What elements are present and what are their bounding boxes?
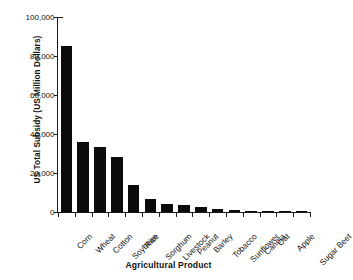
x-tick-label: Corn [76, 232, 95, 251]
y-tick-label: 80,000 [30, 52, 54, 61]
bar [77, 142, 88, 212]
x-tick-mark [192, 212, 193, 217]
bar [296, 211, 307, 212]
x-tick-mark [92, 212, 93, 217]
bar [178, 205, 189, 212]
y-tick-label: 60,000 [30, 91, 54, 100]
x-tick-label-text: Apple [295, 232, 316, 253]
x-tick-mark [142, 212, 143, 217]
x-tick-mark [310, 212, 311, 217]
bar [229, 210, 240, 212]
bar [128, 185, 139, 212]
bar [61, 46, 72, 212]
x-axis-title: Agricultural Product [0, 260, 337, 270]
x-tick-label: Apple [295, 232, 316, 253]
y-tick-label: 20,000 [30, 169, 54, 178]
y-tick-label: 100,000 [26, 13, 55, 22]
bar [195, 207, 206, 212]
x-tick-mark [125, 212, 126, 217]
plot-area: 020,00040,00060,00080,000100,000 CornWhe… [58, 17, 310, 212]
x-axis-line [57, 212, 311, 213]
bar [212, 209, 223, 212]
x-tick-mark [260, 212, 261, 217]
bar [94, 147, 105, 212]
bar [145, 199, 156, 212]
x-tick-mark [209, 212, 210, 217]
x-tick-mark [58, 212, 59, 217]
x-tick-mark [243, 212, 244, 217]
y-tick-label: 40,000 [30, 130, 54, 139]
x-tick-mark [159, 212, 160, 217]
bar [111, 157, 122, 212]
x-tick-mark [176, 212, 177, 217]
x-tick-mark [226, 212, 227, 217]
x-tick-label-text: Corn [76, 232, 95, 251]
x-tick-mark [276, 212, 277, 217]
bar [161, 204, 172, 212]
bar [245, 211, 256, 212]
x-tick-mark [75, 212, 76, 217]
bar [262, 211, 273, 212]
x-tick-mark [293, 212, 294, 217]
x-tick-mark [108, 212, 109, 217]
bar [279, 211, 290, 212]
y-axis-title: US Total Subsidy (US Million Dollars) [33, 10, 42, 210]
y-tick-label: 0 [50, 208, 54, 217]
